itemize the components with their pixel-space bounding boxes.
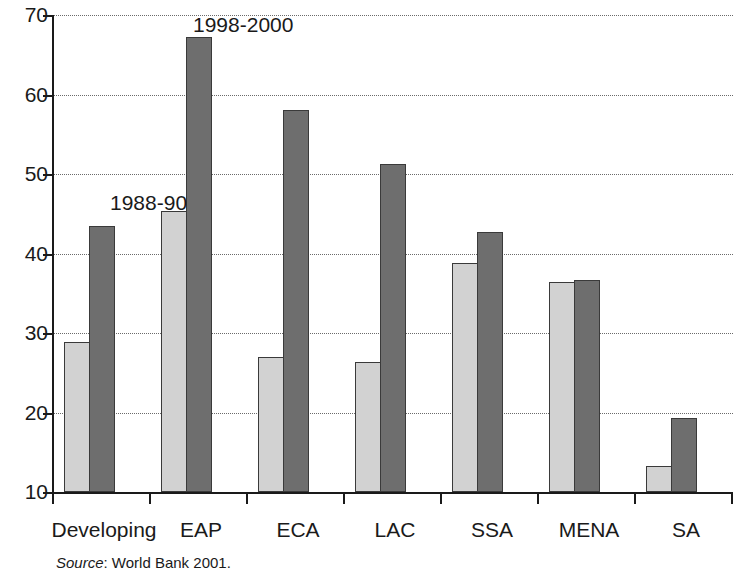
bar-eap-1998-2000 [186, 37, 212, 492]
bar-group-eap [161, 15, 212, 492]
bar-group-ssa [452, 15, 503, 492]
series-annotation-1988-90: 1988-90 [110, 192, 187, 213]
bar-group-mena [549, 15, 600, 492]
x-tick-4 [440, 492, 442, 504]
source-text: : World Bank 2001. [104, 554, 231, 571]
x-tick-0 [52, 492, 54, 504]
bar-sa-1998-2000 [671, 418, 697, 492]
bar-developing-1988-90 [64, 342, 90, 492]
x-axis-line [52, 492, 733, 494]
bar-ssa-1988-90 [452, 263, 478, 492]
x-label-mena: MENA [559, 519, 620, 541]
bar-ssa-1998-2000 [477, 232, 503, 492]
x-label-ssa: SSA [471, 519, 513, 541]
bar-lac-1988-90 [355, 362, 381, 492]
x-tick-3 [343, 492, 345, 504]
bar-group-lac [355, 15, 406, 492]
chart-figure: 70 60 50 40 30 20 10 [0, 0, 737, 581]
x-label-eca: ECA [276, 519, 319, 541]
bar-developing-1998-2000 [89, 226, 115, 492]
source-label: Source [56, 554, 104, 571]
bar-group-sa [646, 15, 697, 492]
bar-lac-1998-2000 [380, 164, 406, 492]
y-tick-30 [43, 333, 53, 335]
x-tick-5 [537, 492, 539, 504]
source-note: Source: World Bank 2001. [56, 554, 231, 571]
bar-group-developing [64, 15, 115, 492]
y-tick-20 [43, 413, 53, 415]
bar-sa-1988-90 [646, 466, 672, 492]
x-label-eap: EAP [180, 519, 222, 541]
y-axis-tick-labels: 70 60 50 40 30 20 10 [0, 15, 48, 492]
x-label-sa: SA [672, 519, 700, 541]
series-annotation-1998-2000: 1998-2000 [193, 14, 293, 35]
x-label-lac: LAC [375, 519, 416, 541]
y-tick-70 [43, 15, 53, 17]
x-tick-7 [731, 492, 733, 504]
x-tick-6 [634, 492, 636, 504]
y-tick-50 [43, 174, 53, 176]
y-tick-40 [43, 254, 53, 256]
y-tick-60 [43, 95, 53, 97]
x-label-developing: Developing [51, 519, 156, 541]
x-axis-category-labels: Developing EAP ECA LAC SSA MENA SA [0, 519, 737, 549]
plot-area [52, 15, 733, 492]
bar-eca-1988-90 [258, 357, 284, 492]
bar-eca-1998-2000 [283, 110, 309, 492]
x-tick-2 [246, 492, 248, 504]
bar-group-eca [258, 15, 309, 492]
x-tick-1 [149, 492, 151, 504]
bar-mena-1988-90 [549, 282, 575, 492]
bar-eap-1988-90 [161, 211, 187, 492]
bar-mena-1998-2000 [574, 280, 600, 492]
